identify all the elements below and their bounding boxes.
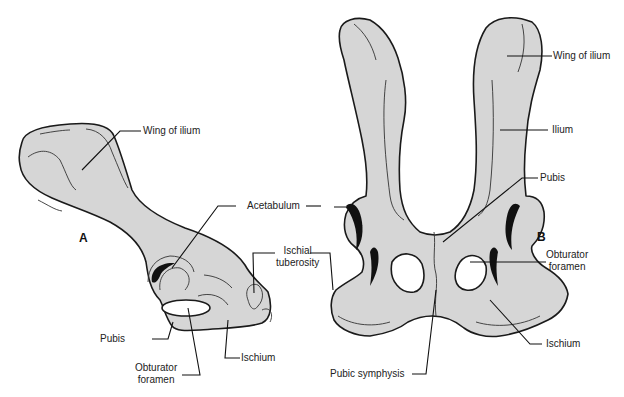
label-line: foramen (138, 374, 175, 385)
label-a-wing-of-ilium: Wing of ilium (143, 125, 200, 137)
label-b-ilium: Ilium (552, 124, 573, 136)
label-a-ischial-tuberosity: Ischial tuberosity (276, 245, 319, 269)
label-a-obturator-foramen: Obturator foramen (135, 362, 177, 386)
pelvis-dorsal-view (331, 18, 568, 337)
label-b-obturator-foramen: Obturator foramen (546, 249, 588, 273)
label-b-wing-of-ilium: Wing of ilium (553, 50, 610, 62)
pelvis-diagram (0, 0, 624, 397)
label-b-pubis: Pubis (540, 172, 565, 184)
label-a-ischium: Ischium (241, 352, 275, 364)
label-line: tuberosity (276, 257, 319, 268)
panel-label-b: B (537, 230, 546, 244)
panel-label-a: A (79, 231, 88, 245)
label-line: foramen (549, 261, 586, 272)
label-line: Ischial (284, 245, 312, 256)
label-a-pubis: Pubis (100, 333, 125, 345)
label-b-ischium: Ischium (546, 338, 580, 350)
label-line: Obturator (135, 362, 177, 373)
label-line: Obturator (546, 249, 588, 260)
pelvis-lateral-view (19, 124, 271, 331)
label-b-pubic-symphysis: Pubic symphysis (330, 368, 404, 380)
label-a-acetabulum: Acetabulum (247, 200, 300, 212)
